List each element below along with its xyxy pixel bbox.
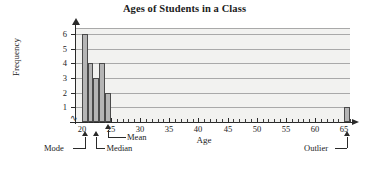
- x-axis-minor-tick: [204, 119, 205, 123]
- outlier-arrow-icon: [344, 131, 350, 136]
- x-axis-minor-tick: [193, 119, 194, 123]
- plot-top-border: [76, 28, 350, 29]
- outlier-leader-line: [335, 148, 347, 149]
- x-axis-minor-tick: [280, 119, 281, 123]
- x-axis-minor-tick: [292, 119, 293, 123]
- y-axis-tick: [71, 34, 76, 35]
- x-axis-minor-tick: [163, 119, 164, 123]
- x-axis-major-tick: [111, 118, 112, 123]
- x-axis-minor-tick: [263, 119, 264, 123]
- x-axis-major-tick: [286, 118, 287, 123]
- y-axis-tick-label: 5: [51, 44, 67, 54]
- x-axis-minor-tick: [321, 119, 322, 123]
- x-axis-tick-label: 45: [217, 124, 239, 134]
- x-axis-tick-label: 40: [187, 124, 209, 134]
- y-axis-line: [75, 24, 76, 124]
- x-axis-minor-tick: [239, 119, 240, 123]
- x-axis-minor-tick: [123, 119, 124, 123]
- x-axis-minor-tick: [216, 119, 217, 123]
- x-axis-major-tick: [257, 118, 258, 123]
- x-axis-minor-tick: [303, 119, 304, 123]
- mode-leader-line: [73, 148, 85, 149]
- y-axis-tick-label: 4: [51, 58, 67, 68]
- axis-break-icon: ∿: [70, 114, 77, 123]
- y-axis-tick: [71, 63, 76, 64]
- x-axis-minor-tick: [175, 119, 176, 123]
- gridline: [76, 107, 350, 108]
- median-leader-line: [96, 137, 97, 148]
- y-axis-tick: [71, 78, 76, 79]
- x-axis-minor-tick: [338, 119, 339, 123]
- gridline: [76, 34, 350, 35]
- x-axis-major-tick: [169, 118, 170, 123]
- x-axis-minor-tick: [333, 119, 334, 123]
- x-axis-minor-tick: [274, 119, 275, 123]
- chart-title: Ages of Students in a Class: [0, 3, 369, 14]
- mode-annotation-label: Mode: [44, 143, 64, 153]
- gridline: [76, 78, 350, 79]
- x-axis-minor-tick: [233, 119, 234, 123]
- gridline: [76, 63, 350, 64]
- x-axis-major-tick: [140, 118, 141, 123]
- y-axis-tick-label: 2: [51, 88, 67, 98]
- histogram-bar: [344, 107, 350, 122]
- x-axis-minor-tick: [181, 119, 182, 123]
- x-axis-minor-tick: [268, 119, 269, 123]
- median-annotation-label: Median: [106, 143, 132, 153]
- x-axis-minor-tick: [146, 119, 147, 123]
- gridline: [76, 49, 350, 50]
- mean-annotation-label: Mean: [127, 132, 146, 142]
- mean-leader-line: [108, 137, 126, 138]
- x-axis-minor-tick: [128, 119, 129, 123]
- x-axis-minor-tick: [158, 119, 159, 123]
- mean-leader-line: [108, 130, 109, 137]
- median-arrow-icon: [93, 131, 99, 136]
- histogram-bar: [105, 93, 111, 122]
- x-axis-line: [70, 122, 353, 123]
- x-axis-minor-tick: [222, 119, 223, 123]
- y-axis-tick-label: 1: [51, 102, 67, 112]
- x-axis-major-tick: [228, 118, 229, 123]
- x-axis-tick-label: 55: [275, 124, 297, 134]
- x-axis-major-tick: [198, 118, 199, 123]
- x-axis-tick-label: 35: [158, 124, 180, 134]
- x-axis-tick-label: 50: [246, 124, 268, 134]
- outlier-leader-line: [347, 137, 348, 148]
- median-leader-line: [96, 148, 105, 149]
- y-axis-tick: [71, 107, 76, 108]
- x-axis-minor-tick: [350, 119, 351, 123]
- x-axis-title: Age: [184, 135, 224, 145]
- x-axis-minor-tick: [152, 119, 153, 123]
- x-axis-minor-tick: [245, 119, 246, 123]
- gridline: [76, 93, 350, 94]
- x-axis-minor-tick: [187, 119, 188, 123]
- mode-leader-line: [85, 137, 86, 149]
- chart-figure: Ages of Students in a Class ∿ Frequency …: [0, 0, 369, 180]
- x-axis-minor-tick: [309, 119, 310, 123]
- x-axis-major-tick: [315, 118, 316, 123]
- x-axis-minor-tick: [251, 119, 252, 123]
- y-axis-arrow-icon: [72, 18, 80, 25]
- mode-arrow-icon: [82, 131, 88, 136]
- x-axis-minor-tick: [327, 119, 328, 123]
- x-axis-minor-tick: [134, 119, 135, 123]
- x-axis-minor-tick: [117, 119, 118, 123]
- mean-arrow-icon: [105, 124, 111, 129]
- y-axis-tick: [71, 49, 76, 50]
- x-axis-minor-tick: [210, 119, 211, 123]
- x-axis-tick-label: 60: [304, 124, 326, 134]
- outlier-annotation-label: Outlier: [304, 143, 328, 153]
- y-axis-tick: [71, 93, 76, 94]
- y-axis-tick-label: 3: [51, 73, 67, 83]
- x-axis-minor-tick: [298, 119, 299, 123]
- y-axis-tick-label: 6: [51, 29, 67, 39]
- y-axis-title: Frequency: [11, 20, 21, 94]
